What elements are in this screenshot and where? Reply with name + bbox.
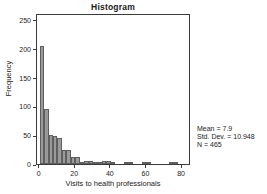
chart-title: Histogram [36, 1, 190, 13]
stat-n: N = 465 [197, 141, 255, 149]
y-tick-label: 250 [19, 16, 31, 25]
histogram-figure: Histogram Frequency 050100150200250 0204… [0, 0, 267, 194]
y-axis: Frequency 050100150200250 [0, 14, 36, 165]
y-tick-label: 150 [19, 74, 31, 83]
x-tick-label: 0 [27, 169, 51, 178]
y-tick-label: 50 [23, 131, 31, 140]
y-tick-mark [33, 78, 36, 79]
x-tick-label: 80 [169, 169, 193, 178]
x-tick-mark [74, 165, 75, 168]
stat-std-dev: Std. Dev. = 10.948 [197, 133, 255, 141]
histogram-bar [146, 162, 150, 164]
histogram-bar [111, 162, 115, 164]
x-tick-mark [181, 165, 182, 168]
y-tick-label: 0 [27, 160, 31, 169]
plot-area [37, 15, 189, 164]
x-tick-label: 40 [98, 169, 122, 178]
x-tick-label: 20 [62, 169, 86, 178]
histogram-bar [173, 162, 177, 164]
x-axis-title: Visits to health professionals [36, 179, 190, 189]
plot-frame [36, 14, 190, 165]
y-axis-title: Frequency [4, 39, 13, 119]
x-tick-mark [145, 165, 146, 168]
y-tick-mark [33, 49, 36, 50]
x-tick-label: 60 [133, 169, 157, 178]
statistics-annotation: Mean = 7.9 Std. Dev. = 10.948 N = 465 [197, 125, 255, 150]
x-tick-mark [38, 165, 39, 168]
histogram-bar [129, 162, 133, 164]
y-tick-label: 200 [19, 45, 31, 54]
y-tick-mark [33, 107, 36, 108]
y-tick-label: 100 [19, 102, 31, 111]
stat-mean: Mean = 7.9 [197, 125, 255, 133]
y-tick-mark [33, 20, 36, 21]
y-tick-mark [33, 136, 36, 137]
x-tick-mark [109, 165, 110, 168]
